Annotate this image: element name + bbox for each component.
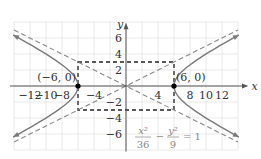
- y-tick-label: 2: [115, 64, 122, 77]
- eq-rhs: = 1: [183, 131, 201, 142]
- vertex-label: (−6, 0): [37, 71, 76, 84]
- y-tick-label: −4: [106, 112, 122, 125]
- x-tick-label: 8: [187, 89, 194, 102]
- vertex-point: [171, 83, 176, 88]
- x-tick-label: −8: [54, 89, 70, 102]
- y-axis-label: y: [116, 18, 124, 31]
- eq-den2: 9: [170, 139, 176, 150]
- y-tick-label: 4: [115, 48, 122, 61]
- x-tick-label: 4: [155, 89, 162, 102]
- y-tick-label: −2: [106, 96, 122, 109]
- eq-den1: 36: [137, 139, 150, 150]
- x-axis-label: x: [252, 80, 259, 93]
- eq-num1: x²: [138, 125, 148, 136]
- vertex-label: (6, 0): [176, 71, 206, 84]
- eq-num2: y²: [167, 125, 178, 136]
- x-tick-label: 10: [199, 89, 213, 102]
- x-tick-label: 12: [215, 89, 229, 102]
- y-tick-label: −6: [106, 128, 122, 141]
- hyperbola-plot: xy −12−10−8−4481012642−2−4−6 (−6, 0)(6, …: [0, 0, 261, 159]
- eq-minus: −: [156, 131, 164, 142]
- y-tick-label: 6: [115, 32, 122, 45]
- equation-label: x² 36 − y² 9 = 1: [135, 125, 201, 150]
- vertex-point: [75, 83, 80, 88]
- x-tick-label: −4: [86, 89, 102, 102]
